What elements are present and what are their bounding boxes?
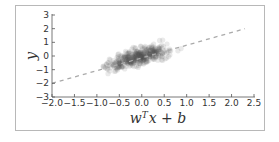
x-axis-label: wTx + b [130,110,187,126]
x-tick-label: −1.5 [64,98,86,108]
x-tick-label: 1.5 [202,98,216,108]
y-tick-label: 0 [43,51,49,61]
y-tick-label: −1 [36,65,49,75]
x-tick-label: 2.5 [247,98,261,108]
y-axis-label: y [22,51,40,61]
scatter-chart: 3210−1−2−3−2.0−1.5−1.0−0.50.00.51.01.52.… [0,0,279,142]
y-tick-label: −2 [36,78,49,88]
x-tick-label: 0.0 [135,98,150,108]
y-tick-label: 2 [43,24,49,34]
x-tick-label: 1.0 [180,98,195,108]
x-tick-label: 2.0 [224,98,239,108]
y-tick-label: 1 [43,37,49,47]
x-tick-label: −2.0 [41,98,63,108]
y-tick-label: 3 [43,10,49,20]
x-tick-label: −0.5 [108,98,130,108]
x-tick-label: −1.0 [86,98,108,108]
x-tick-label: 0.5 [157,98,171,108]
scatter-points [101,38,184,77]
